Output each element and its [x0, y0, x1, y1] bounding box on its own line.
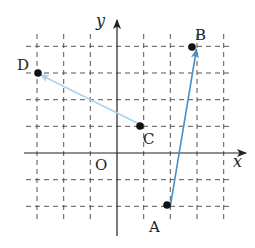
coordinate-diagram: x y O A B C D	[0, 0, 255, 248]
vector-cd	[40, 75, 144, 127]
point-d-label: D	[17, 56, 29, 74]
grid	[26, 34, 232, 222]
point-a-label: A	[148, 218, 160, 236]
y-axis-label: y	[95, 11, 106, 30]
x-axis-label: x	[233, 152, 242, 171]
point-c	[136, 122, 144, 130]
point-b	[188, 43, 196, 51]
point-b-label: B	[195, 26, 206, 44]
point-d	[34, 69, 42, 77]
point-c-label: C	[143, 130, 154, 148]
origin-label: O	[95, 156, 107, 174]
point-a	[163, 201, 171, 209]
